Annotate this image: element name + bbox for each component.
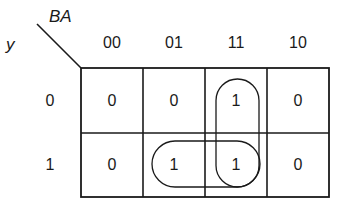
cell-y0-ba11: 1: [205, 69, 267, 133]
column-variable-label: BA: [49, 8, 72, 25]
cell-y1-ba00: 0: [81, 133, 143, 197]
cell-y0-ba01: 0: [143, 69, 205, 133]
row-variable-label: y: [6, 36, 15, 53]
cell-y1-ba01: 1: [143, 133, 205, 197]
column-label-00: 00: [92, 35, 132, 51]
cell-y1-ba10: 0: [267, 133, 329, 197]
cell-y0-ba00: 0: [81, 69, 143, 133]
column-label-10: 10: [278, 35, 318, 51]
header-diagonal: [37, 24, 81, 68]
row-label-0: 0: [30, 93, 70, 109]
column-label-01: 01: [154, 35, 194, 51]
row-label-1: 1: [30, 157, 70, 173]
cell-y1-ba11: 1: [205, 133, 267, 197]
column-label-11: 11: [216, 35, 256, 51]
cell-y0-ba10: 0: [267, 69, 329, 133]
